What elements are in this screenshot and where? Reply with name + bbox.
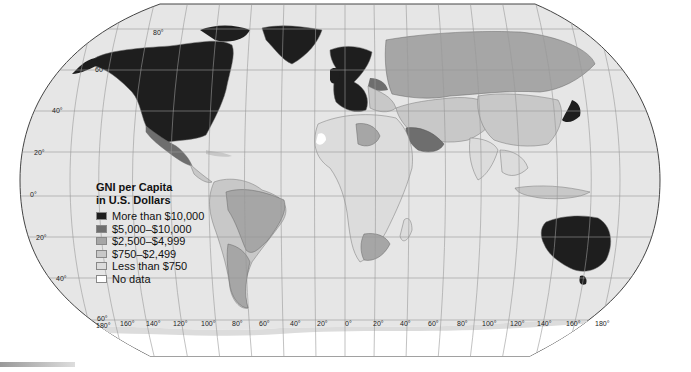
legend-item: More than $10,000 — [96, 210, 256, 223]
legend-title-line2: in U.S. Dollars — [96, 194, 256, 207]
swatch-750-2499 — [96, 250, 107, 258]
legend-title-line1: GNI per Capita — [96, 181, 256, 194]
lon-label: 100° — [201, 320, 216, 327]
lon-label: 100° — [482, 320, 497, 327]
lat-label: 20° — [36, 234, 47, 241]
legend-item: Less than $750 — [96, 260, 256, 273]
lon-label: 60° — [428, 320, 439, 327]
decorative-bar — [0, 362, 75, 367]
lon-label: 180° — [96, 322, 111, 329]
lon-label: 140° — [537, 320, 552, 327]
lon-label: 120° — [510, 320, 525, 327]
lon-label: 60° — [259, 320, 270, 327]
lon-label: 0° — [345, 320, 352, 327]
legend-item: No data — [96, 273, 256, 286]
lon-label: 40° — [400, 320, 411, 327]
lon-label: 160° — [120, 320, 135, 327]
lat-label: 0° — [30, 191, 37, 198]
map-legend: GNI per Capita in U.S. Dollars More than… — [96, 181, 256, 285]
lat-label: 20° — [34, 149, 45, 156]
swatch-less-than-750 — [96, 262, 107, 270]
swatch-5000-10000 — [96, 225, 107, 233]
lon-label: 20° — [317, 320, 328, 327]
swatch-no-data — [96, 275, 107, 283]
lat-label: 40° — [52, 107, 63, 114]
legend-item: $750–$2,499 — [96, 248, 256, 261]
legend-item: $2,500–$4,999 — [96, 235, 256, 248]
lat-label: 40° — [56, 275, 67, 282]
lon-label: 160° — [566, 320, 581, 327]
lat-label: 60° — [97, 315, 108, 322]
lon-label: 180° — [595, 320, 610, 327]
lat-label: 80° — [153, 29, 164, 36]
swatch-2500-4999 — [96, 237, 107, 245]
lon-label: 140° — [146, 320, 161, 327]
legend-item: $5,000–$10,000 — [96, 223, 256, 236]
lon-label: 80° — [232, 320, 243, 327]
swatch-more-than-10000 — [96, 212, 107, 220]
lat-label: 60° — [95, 66, 106, 73]
lon-label: 80° — [457, 320, 468, 327]
lon-label: 20° — [373, 320, 384, 327]
lon-label: 40° — [290, 320, 301, 327]
lon-label: 120° — [173, 320, 188, 327]
